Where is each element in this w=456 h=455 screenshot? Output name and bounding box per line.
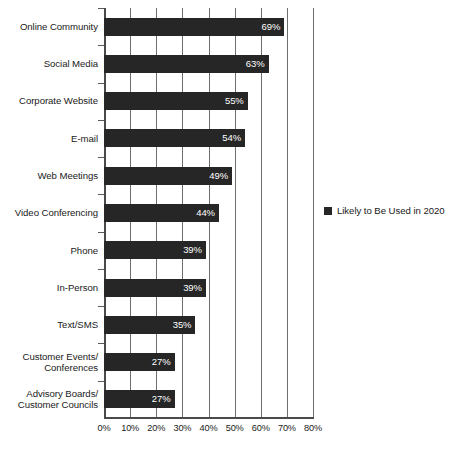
y-axis-minor-tick <box>98 232 104 233</box>
bar-value-label: 49% <box>204 167 228 185</box>
bar-value-label: 54% <box>217 129 241 147</box>
bar-value-label: 35% <box>167 316 191 334</box>
category-label: Corporate Website <box>0 95 98 107</box>
category-label: In-Person <box>0 282 98 294</box>
x-axis-line <box>104 417 314 419</box>
bar-value-label: 39% <box>178 279 202 297</box>
horizontal-bar-chart: 0%10%20%30%40%50%60%70%80%69%Online Comm… <box>0 0 456 455</box>
gridline <box>287 8 288 418</box>
legend-swatch-icon <box>324 207 332 215</box>
bar-value-label: 69% <box>256 18 280 36</box>
y-axis-minor-tick <box>98 157 104 158</box>
bar-value-label: 27% <box>147 390 171 408</box>
y-axis-minor-tick <box>98 83 104 84</box>
category-label: Text/SMS <box>0 319 98 331</box>
bar-value-label: 39% <box>178 241 202 259</box>
y-axis-minor-tick <box>98 194 104 195</box>
category-label: Online Community <box>0 21 98 33</box>
y-axis-minor-tick <box>98 120 104 121</box>
y-axis-minor-tick <box>98 8 104 9</box>
legend-label: Likely to Be Used in 2020 <box>337 205 445 216</box>
category-label: Social Media <box>0 58 98 70</box>
category-label: Customer Events/ Conferences <box>0 351 98 374</box>
category-label: Phone <box>0 245 98 257</box>
bar-value-label: 27% <box>147 353 171 371</box>
bar-value-label: 63% <box>241 55 265 73</box>
y-axis-minor-tick <box>98 45 104 46</box>
category-label: Video Conferencing <box>0 207 98 219</box>
bar-value-label: 44% <box>191 204 215 222</box>
gridline <box>313 8 314 418</box>
y-axis-minor-tick <box>98 269 104 270</box>
category-label: Web Meetings <box>0 170 98 182</box>
category-label: Advisory Boards/ Customer Councils <box>0 388 98 411</box>
chart-legend: Likely to Be Used in 2020 <box>324 205 445 216</box>
bar-value-label: 55% <box>220 92 244 110</box>
y-axis-minor-tick <box>98 343 104 344</box>
category-label: E-mail <box>0 133 98 145</box>
x-axis-tick-label: 80% <box>296 423 330 433</box>
y-axis-minor-tick <box>98 381 104 382</box>
y-axis-minor-tick <box>98 306 104 307</box>
